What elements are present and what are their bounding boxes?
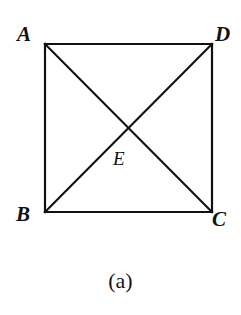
vertex-label-a: A: [17, 24, 31, 45]
figure-caption: (a): [0, 269, 241, 293]
point-label-e: E: [113, 149, 125, 168]
vertex-label-d: D: [215, 24, 230, 45]
geometry-figure: A D C B E (a): [0, 0, 241, 315]
vertex-label-c: C: [212, 209, 226, 230]
vertex-label-b: B: [16, 204, 30, 225]
